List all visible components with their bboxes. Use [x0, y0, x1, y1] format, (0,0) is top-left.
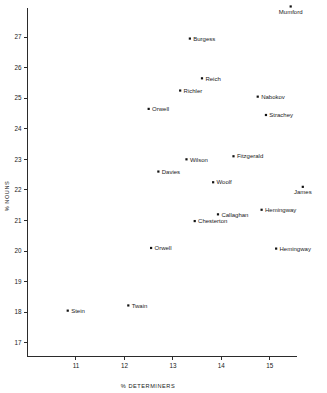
- y-tick-label: 26: [14, 64, 22, 71]
- point-marker: [157, 170, 159, 172]
- x-tick-label: 11: [73, 362, 80, 369]
- point-marker: [217, 213, 219, 215]
- x-axis-title: % DETERMINERS: [121, 383, 175, 389]
- point-marker: [127, 304, 129, 306]
- point-marker: [189, 37, 191, 39]
- point-label: Callaghan: [221, 212, 248, 218]
- point-marker: [185, 158, 187, 160]
- data-point: Hemingway: [261, 207, 297, 213]
- data-point: Orwell: [148, 106, 170, 112]
- point-label: Reich: [205, 76, 220, 82]
- point-label: Twain: [132, 303, 148, 309]
- data-point: Orwell: [150, 245, 172, 251]
- data-point: Fitzgerald: [232, 153, 263, 159]
- y-tick-label: 21: [14, 217, 22, 224]
- data-point: Davies: [157, 169, 180, 175]
- point-marker: [179, 89, 181, 91]
- axes: [28, 8, 297, 357]
- y-tick-label: 25: [14, 94, 22, 101]
- y-tick-label: 23: [14, 156, 22, 163]
- point-label: Stein: [71, 308, 85, 314]
- y-tick-label: 22: [14, 186, 22, 193]
- point-label: Mumford: [279, 9, 303, 15]
- data-point: James: [294, 186, 312, 195]
- y-tick-label: 19: [14, 278, 22, 285]
- y-tick-label: 24: [14, 125, 22, 132]
- point-label: Woolf: [217, 179, 233, 185]
- y-tick-label: 20: [14, 247, 22, 254]
- x-tick-label: 15: [266, 362, 274, 369]
- y-tick-label: 17: [14, 339, 22, 346]
- data-point: Richler: [179, 88, 202, 94]
- point-marker: [212, 181, 214, 183]
- axis-spine: [28, 8, 297, 357]
- data-point: Burgess: [189, 36, 216, 42]
- x-tick-label: 12: [121, 362, 129, 369]
- data-point: Strachey: [265, 112, 293, 118]
- point-marker: [67, 310, 69, 312]
- point-marker: [302, 186, 304, 188]
- point-label: Burgess: [193, 36, 215, 42]
- data-point: Woolf: [212, 179, 232, 185]
- point-label: Hemingway: [265, 207, 296, 213]
- point-label: Fitzgerald: [237, 153, 263, 159]
- point-label: James: [294, 189, 312, 195]
- point-marker: [150, 247, 152, 249]
- scatter-plot-figure: 17181920212223242526271112131415 Mumford…: [0, 0, 327, 393]
- data-points: MumfordBurgessReichRichlerNabokovOrwellS…: [67, 5, 312, 313]
- point-marker: [290, 5, 292, 7]
- axis-ticks: 17181920212223242526271112131415: [14, 33, 273, 368]
- data-point: Hemingway: [275, 246, 311, 252]
- point-marker: [261, 209, 263, 211]
- data-point: Wilson: [185, 157, 208, 163]
- x-tick-label: 14: [218, 362, 226, 369]
- point-label: Wilson: [190, 157, 208, 163]
- point-marker: [265, 114, 267, 116]
- data-point: Chesterton: [194, 218, 228, 224]
- point-marker: [194, 220, 196, 222]
- point-marker: [232, 155, 234, 157]
- point-label: Orwell: [152, 106, 169, 112]
- point-label: Davies: [162, 169, 180, 175]
- data-point: Stein: [67, 308, 85, 314]
- data-point: Reich: [201, 76, 221, 82]
- y-axis-title: % NOUNS: [4, 181, 10, 212]
- point-label: Chesterton: [198, 218, 227, 224]
- data-point: Nabokov: [257, 94, 285, 100]
- data-point: Twain: [127, 303, 147, 309]
- x-tick-label: 13: [169, 362, 177, 369]
- point-label: Hemingway: [280, 246, 311, 252]
- plot-canvas: 17181920212223242526271112131415 Mumford…: [0, 0, 327, 393]
- point-label: Orwell: [154, 245, 171, 251]
- point-marker: [201, 77, 203, 79]
- point-label: Richler: [184, 88, 203, 94]
- point-label: Nabokov: [261, 94, 285, 100]
- point-marker: [257, 96, 259, 98]
- point-label: Strachey: [269, 112, 293, 118]
- point-marker: [275, 247, 277, 249]
- point-marker: [148, 108, 150, 110]
- y-tick-label: 27: [14, 33, 22, 40]
- y-tick-label: 18: [14, 308, 22, 315]
- data-point: Callaghan: [217, 212, 249, 218]
- data-point: Mumford: [279, 5, 303, 14]
